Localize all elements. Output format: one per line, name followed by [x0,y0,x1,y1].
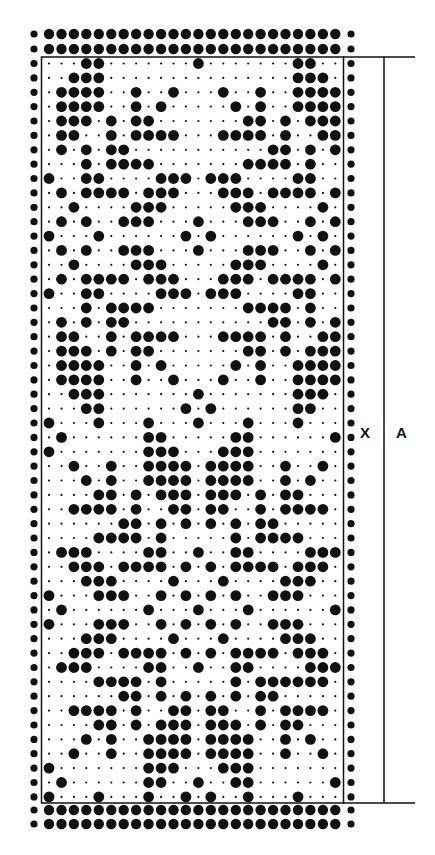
punched-hole [230,734,241,745]
empty-hole [272,796,274,798]
punched-hole [305,216,316,227]
punched-hole [106,116,117,127]
punched-hole [193,58,204,69]
empty-hole [210,120,212,122]
edge-dot [193,819,203,829]
empty-hole [185,120,187,122]
empty-hole [110,566,112,568]
empty-hole [322,436,324,438]
punched-hole [131,705,142,716]
empty-hole [284,106,286,108]
empty-hole [334,408,336,410]
edge-dot [168,29,178,39]
empty-hole [160,77,162,79]
empty-hole [135,638,137,640]
empty-hole [247,724,249,726]
empty-hole [235,609,237,611]
empty-hole [110,796,112,798]
punched-hole [218,446,229,457]
empty-hole [48,192,50,194]
punched-hole [56,346,67,357]
empty-hole [197,724,199,726]
punched-hole [93,648,104,659]
punched-hole [318,73,329,84]
punched-hole [118,533,129,544]
empty-hole [222,566,224,568]
punched-hole [44,231,55,242]
empty-hole [272,753,274,755]
empty-hole [284,364,286,366]
punched-hole [243,259,254,270]
punched-hole [143,418,154,429]
punched-hole [255,116,266,127]
edge-dot [218,819,228,829]
punched-hole [81,633,92,644]
empty-hole [135,393,137,395]
empty-hole [85,206,87,208]
punched-hole [93,403,104,414]
empty-hole [98,134,100,136]
punched-hole [330,360,341,371]
punched-hole [305,173,316,184]
punched-hole [93,360,104,371]
empty-hole [334,537,336,539]
empty-hole [73,149,75,151]
empty-hole [272,465,274,467]
empty-hole [322,163,324,165]
empty-hole [297,609,299,611]
empty-hole [73,537,75,539]
edge-dot [305,805,315,815]
empty-hole [334,681,336,683]
empty-hole [110,408,112,410]
edge-dot [44,805,54,815]
punched-hole [106,346,117,357]
empty-hole [123,393,125,395]
punched-hole [305,303,316,314]
empty-hole [260,321,262,323]
empty-hole [135,408,137,410]
punched-hole [280,490,291,501]
empty-hole [284,91,286,93]
empty-hole [309,781,311,783]
empty-hole [197,508,199,510]
empty-hole [172,408,174,410]
punched-hole [131,346,142,357]
empty-hole [60,724,62,726]
empty-hole [210,666,212,668]
punched-hole [280,346,291,357]
punched-hole [193,777,204,788]
empty-hole [85,537,87,539]
punched-hole [293,676,304,687]
empty-hole [284,293,286,295]
punched-hole [205,720,216,731]
empty-hole [148,580,150,582]
empty-hole [98,666,100,668]
punched-hole [280,533,291,544]
punched-hole [305,274,316,285]
empty-hole [73,796,75,798]
empty-hole [60,451,62,453]
punched-hole [255,130,266,141]
empty-hole [148,77,150,79]
empty-hole [85,681,87,683]
empty-hole [85,695,87,697]
edge-dot [30,448,37,455]
empty-hole [297,134,299,136]
punched-hole [131,130,142,141]
empty-hole [148,293,150,295]
punched-hole [255,331,266,342]
edge-dot [30,520,37,527]
empty-hole [123,120,125,122]
empty-hole [272,710,274,712]
empty-hole [172,307,174,309]
empty-hole [185,321,187,323]
edge-dot [231,805,241,815]
empty-hole [210,264,212,266]
empty-hole [73,623,75,625]
edge-dot [193,29,203,39]
empty-hole [222,408,224,410]
empty-hole [135,465,137,467]
punched-hole [131,116,142,127]
empty-hole [247,408,249,410]
edge-dot [30,707,37,714]
